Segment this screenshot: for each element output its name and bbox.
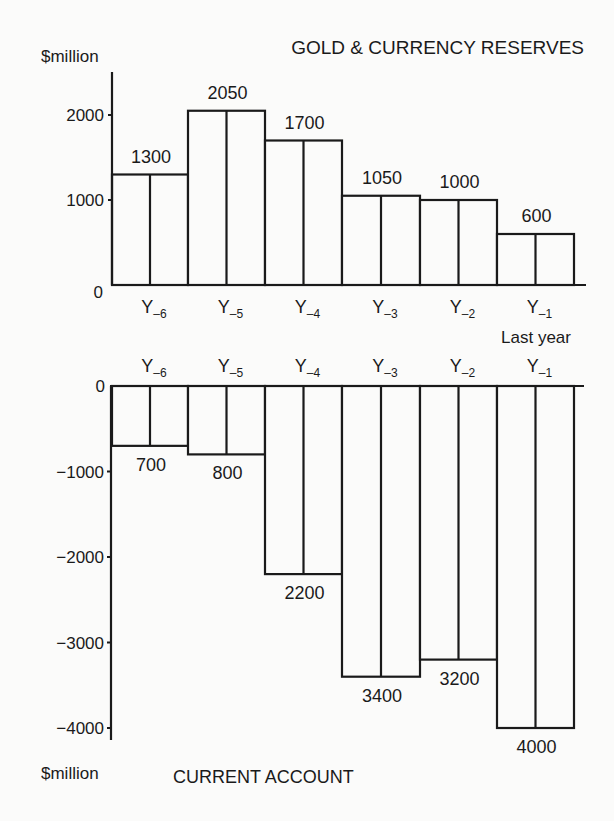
bottom-y-unit-label: $million xyxy=(41,764,99,783)
y-tick-label: 0 xyxy=(96,377,105,396)
x-tick-label: Y–5 xyxy=(218,297,244,321)
x-tick-label: Y–4 xyxy=(295,356,321,380)
x-tick-label: Y–6 xyxy=(141,356,167,380)
bar-value-label: 1700 xyxy=(284,113,324,133)
bar-value-label: 1050 xyxy=(362,168,402,188)
bar-value-label: 600 xyxy=(521,206,551,226)
x-tick-label: Y–4 xyxy=(295,297,321,321)
bar-value-label: 700 xyxy=(136,455,166,475)
top-x-tick-labels: Y–6Y–5Y–4Y–3Y–2Y–1 xyxy=(141,297,552,321)
y-tick-label: −3000 xyxy=(56,634,104,653)
x-tick-label: Y–2 xyxy=(450,356,476,380)
y-tick-label: −4000 xyxy=(56,719,104,738)
bar-value-label: 4000 xyxy=(516,737,556,757)
top-y-unit-label: $million xyxy=(41,47,99,66)
x-tick-label: Y–1 xyxy=(527,356,553,380)
chart-figure: $million GOLD & CURRENCY RESERVES 130020… xyxy=(0,0,614,821)
y-tick-label: −1000 xyxy=(56,463,104,482)
bar-value-label: 1300 xyxy=(131,147,171,167)
x-tick-label: Y–6 xyxy=(141,297,167,321)
bottom-x-tick-labels: Y–6Y–5Y–4Y–3Y–2Y–1 xyxy=(141,356,552,380)
x-tick-label: Y–3 xyxy=(372,356,398,380)
x-tick-label: Y–3 xyxy=(372,297,398,321)
bottom-bars: 7008002200340032004000 xyxy=(112,386,574,757)
top-bars: 13002050170010501000600 xyxy=(112,83,574,285)
y-tick-label: 0 xyxy=(94,283,103,302)
y-tick-label: 1000 xyxy=(66,191,104,210)
current-account-chart: Y–6Y–5Y–4Y–3Y–2Y–1 700800220034003200400… xyxy=(41,356,584,787)
last-year-annotation: Last year xyxy=(501,328,571,347)
bottom-chart-title: CURRENT ACCOUNT xyxy=(173,767,354,787)
bar-value-label: 1000 xyxy=(439,172,479,192)
bar-value-label: 3200 xyxy=(439,669,479,689)
gold-currency-reserves-chart: $million GOLD & CURRENCY RESERVES 130020… xyxy=(41,37,586,347)
bar-value-label: 3400 xyxy=(362,686,402,706)
top-chart-title: GOLD & CURRENCY RESERVES xyxy=(291,37,584,58)
y-tick-label: −2000 xyxy=(56,548,104,567)
x-tick-label: Y–5 xyxy=(218,356,244,380)
bar-value-label: 800 xyxy=(212,463,242,483)
x-tick-label: Y–2 xyxy=(450,297,476,321)
x-tick-label: Y–1 xyxy=(527,297,553,321)
bar-value-label: 2200 xyxy=(284,583,324,603)
bar-value-label: 2050 xyxy=(207,83,247,103)
y-tick-label: 2000 xyxy=(66,106,104,125)
